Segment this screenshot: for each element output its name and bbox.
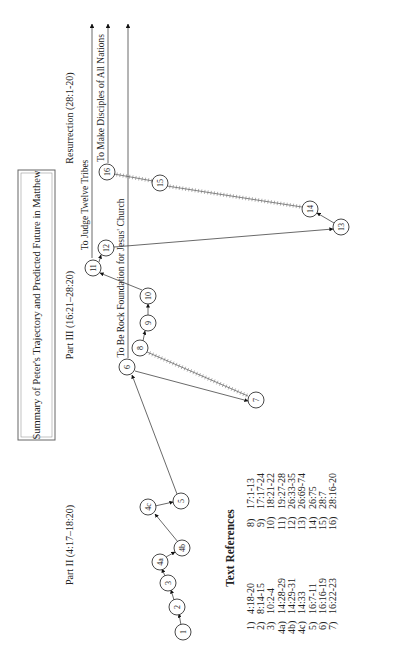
section-label-resurrection: Resurrection (28:1-20) <box>64 72 76 163</box>
section-label-part3: Part III (16:21–28:20) <box>64 271 76 359</box>
svg-text:10: 10 <box>144 292 153 300</box>
node-5: 5 <box>173 493 189 509</box>
svg-text:13: 13 <box>337 223 346 231</box>
svg-text:1: 1 <box>179 630 188 634</box>
svg-text:15: 15 <box>156 179 165 187</box>
svg-text:2: 2 <box>173 605 182 609</box>
references-heading: Text References <box>224 509 236 587</box>
tick-edges <box>114 173 302 398</box>
references-left-column: 1)4:18-20 2)8:14-15 3)10:2-4 4a)14:28-29… <box>245 578 339 634</box>
section-label-part2: Part II (4:17–18:20) <box>64 505 76 585</box>
svg-text:28:16-20: 28:16-20 <box>327 473 338 509</box>
node-2: 2 <box>169 599 185 615</box>
references-right-column: 8)17:1-13 9)17:17-24 10)18:21-22 11)19:2… <box>245 473 339 530</box>
trajectory-label-rock: To Be Rock Foundation for Jesus' Church <box>116 198 126 357</box>
title-box: Summary of Peter's Trajectory and Predic… <box>18 170 55 440</box>
svg-text:18:21-22: 18:21-22 <box>265 473 276 509</box>
svg-text:7): 7) <box>327 622 339 630</box>
trajectory-diagram: Summary of Peter's Trajectory and Predic… <box>0 0 398 660</box>
node-16: 16 <box>99 164 115 180</box>
svg-text:4a: 4a <box>156 558 165 566</box>
node-3: 3 <box>160 575 176 591</box>
trajectory-label-disciples: To Make Disciples of All Nations <box>96 34 106 162</box>
svg-text:4c: 4c <box>144 503 153 511</box>
svg-text:9: 9 <box>144 321 153 325</box>
trajectory-label-judge: To Judge Twelve Tribes <box>80 159 90 250</box>
svg-text:16:22-23: 16:22-23 <box>327 578 338 614</box>
node-14: 14 <box>302 201 318 217</box>
node-9: 9 <box>140 315 156 331</box>
svg-text:14:33: 14:33 <box>296 591 307 614</box>
svg-text:4b: 4b <box>178 544 187 552</box>
node-4a: 4a <box>152 554 168 570</box>
node-4c: 4c <box>140 499 156 515</box>
node-15: 15 <box>152 175 168 191</box>
svg-text:12: 12 <box>102 244 111 252</box>
node-1: 1 <box>175 624 191 640</box>
node-13: 13 <box>333 219 349 235</box>
node-11: 11 <box>85 260 101 276</box>
svg-text:5: 5 <box>177 499 186 503</box>
node-12: 12 <box>98 240 114 256</box>
node-7: 7 <box>248 392 264 408</box>
svg-text:8: 8 <box>136 346 145 350</box>
diagram-title: Summary of Peter's Trajectory and Predic… <box>31 170 42 439</box>
node-8: 8 <box>132 340 148 356</box>
node-10: 10 <box>140 288 156 304</box>
node-6: 6 <box>119 359 135 375</box>
svg-text:14: 14 <box>306 205 315 213</box>
svg-text:26:69-74: 26:69-74 <box>296 473 307 509</box>
svg-text:16: 16 <box>103 168 112 176</box>
svg-text:7: 7 <box>252 398 261 402</box>
svg-text:6: 6 <box>123 365 132 369</box>
node-4b: 4b <box>174 540 190 556</box>
svg-text:3: 3 <box>164 581 173 585</box>
svg-text:16): 16) <box>327 517 339 530</box>
edges <box>99 213 334 625</box>
svg-text:10:2-4: 10:2-4 <box>265 588 276 614</box>
text-references: Text References 1)4:18-20 2)8:14-15 3)10… <box>224 473 339 634</box>
svg-text:11: 11 <box>89 264 98 272</box>
